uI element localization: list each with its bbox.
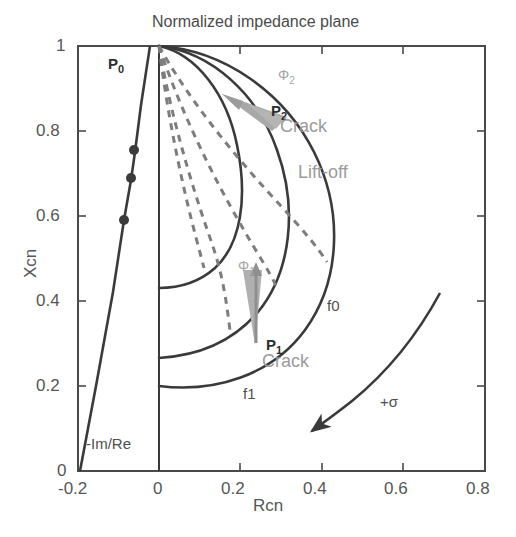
label-p0-text: P bbox=[108, 55, 118, 72]
lift-off-curves bbox=[159, 46, 334, 387]
data-point-marker bbox=[129, 145, 139, 155]
y-tick-1: 1 bbox=[56, 37, 65, 54]
y-axis-label: Xcn bbox=[22, 249, 39, 278]
label-lift-off: Lift-off bbox=[298, 163, 348, 181]
label-phi1: Φ1 bbox=[238, 259, 255, 277]
label-phi2-text: Φ bbox=[278, 67, 289, 83]
y-tick-0.4: 0.4 bbox=[36, 292, 60, 309]
chart-title: Normalized impedance plane bbox=[152, 14, 359, 30]
y-tick-0.8: 0.8 bbox=[36, 122, 60, 139]
data-point-marker bbox=[126, 173, 136, 183]
label-p0: P0 bbox=[108, 56, 124, 75]
x-tick--0.2: -0.2 bbox=[58, 480, 87, 497]
crack-dashed-3 bbox=[159, 46, 276, 286]
label-f1: f1 bbox=[243, 386, 256, 401]
label-phi1-text: Φ bbox=[238, 258, 249, 274]
label-im-re: -Im/Re bbox=[86, 436, 131, 451]
y-tick-0.6: 0.6 bbox=[36, 207, 60, 224]
x-axis-label: Rcn bbox=[253, 497, 283, 514]
y-tick-0.2: 0.2 bbox=[36, 377, 60, 394]
label-sigma: +σ bbox=[380, 394, 398, 409]
x-tick-0.6: 0.6 bbox=[384, 480, 408, 497]
x-tick-0.2: 0.2 bbox=[221, 480, 245, 497]
impedance-plane-figure bbox=[0, 0, 516, 537]
label-phi2-sub: 2 bbox=[289, 75, 295, 86]
label-f0: f0 bbox=[327, 298, 340, 313]
data-point-marker bbox=[119, 215, 129, 225]
x-tick-0.8: 0.8 bbox=[466, 480, 490, 497]
x-tick-0: 0 bbox=[153, 480, 162, 497]
label-crack-upper: Crack bbox=[280, 117, 327, 135]
crack-dashed-1 bbox=[159, 46, 204, 268]
im-re-curve bbox=[80, 46, 150, 471]
label-phi2: Φ2 bbox=[278, 68, 295, 86]
x-tick-0.4: 0.4 bbox=[303, 480, 327, 497]
label-p0-sub: 0 bbox=[118, 63, 124, 75]
label-phi1-sub: 1 bbox=[249, 266, 255, 277]
label-crack-lower: Crack bbox=[262, 352, 309, 370]
y-tick-0: 0 bbox=[57, 462, 66, 479]
